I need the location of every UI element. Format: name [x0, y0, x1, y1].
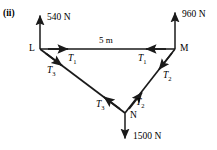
tension-subscript: 3 — [52, 70, 55, 77]
force-label-540: 540 N — [47, 12, 71, 22]
dimension-label-5m: 5 m — [99, 36, 113, 45]
tension-label-T2-at-N: T2 — [136, 97, 145, 107]
force-label-1500: 1500 N — [133, 131, 161, 141]
force-label-960: 960 N — [182, 9, 206, 19]
vertex-label-N: N — [130, 110, 137, 120]
tension-label-T1-at-L: T1 — [68, 53, 77, 63]
vertex-label-L: L — [29, 43, 35, 53]
force-diagram-figure: (ii) — [0, 0, 217, 150]
tension-arrow-T2-at-M — [159, 53, 172, 70]
tension-label-T2-at-M: T2 — [163, 70, 172, 80]
tension-subscript: 2 — [168, 75, 171, 82]
vertex-label-M: M — [180, 43, 188, 53]
tension-subscript: 1 — [73, 58, 76, 65]
tension-label-T1-at-M: T1 — [138, 53, 147, 63]
tension-arrow-T3-at-N — [104, 97, 120, 109]
tension-arrow-T3-at-L — [46, 54, 62, 66]
tension-label-T3-at-L: T3 — [47, 65, 56, 75]
diagram-canvas — [0, 0, 217, 150]
tension-subscript: 3 — [101, 104, 104, 111]
tension-label-T3-at-N: T3 — [96, 99, 105, 109]
tension-subscript: 1 — [143, 58, 146, 65]
tension-subscript: 2 — [141, 102, 144, 109]
